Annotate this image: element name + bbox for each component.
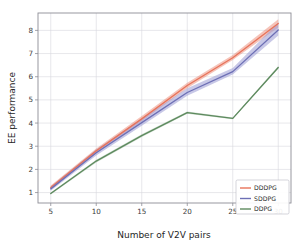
x-tick-label: 20	[183, 207, 193, 216]
y-tick-label: 6	[28, 72, 33, 81]
y-tick-label: 3	[28, 142, 33, 151]
y-tick-label: 2	[28, 165, 33, 174]
x-tick-label: 5	[48, 207, 53, 216]
chart-figure: 51015202530 12345678 Number of V2V pairs…	[0, 0, 308, 246]
line-chart: 51015202530 12345678 Number of V2V pairs…	[0, 0, 308, 246]
legend-label-ddpg: DDPG	[254, 205, 272, 212]
y-tick-label: 8	[28, 26, 33, 35]
y-tick-label: 7	[28, 49, 33, 58]
y-tick-label: 5	[28, 95, 33, 104]
y-tick-label: 1	[28, 188, 33, 197]
legend-label-sddpg: SDDPG	[254, 195, 276, 202]
x-tick-label: 15	[137, 207, 146, 216]
legend-label-dddpg: DDDPG	[254, 184, 277, 191]
x-tick-label: 10	[92, 207, 102, 216]
x-axis-title: Number of V2V pairs	[117, 230, 211, 240]
y-tick-label: 4	[28, 119, 33, 128]
y-axis-title: EE performance	[7, 72, 17, 144]
chart-legend[interactable]: DDDPGSDDPGDDPG	[236, 180, 289, 214]
